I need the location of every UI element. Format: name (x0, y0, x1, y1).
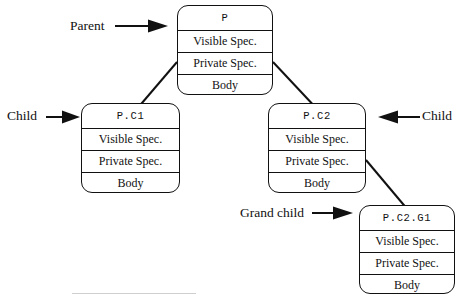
diagram-canvas: P Visible Spec. Private Spec. Body P.C1 … (0, 0, 461, 299)
node-title: P.C1 (82, 104, 179, 128)
node-row-visible-spec: Visible Spec. (82, 128, 179, 150)
node-row-body: Body (269, 172, 365, 193)
package-node-child1[interactable]: P.C1 Visible Spec. Private Spec. Body (81, 103, 180, 193)
connector-child2-grandchild (366, 160, 408, 210)
child-right-arrow-icon (378, 111, 420, 124)
annotation-label-parent: Parent (70, 18, 105, 34)
grand-child-arrow-icon (312, 207, 353, 220)
node-row-visible-spec: Visible Spec. (178, 30, 272, 52)
node-row-body: Body (178, 74, 272, 95)
node-row-private-spec: Private Spec. (82, 150, 179, 172)
node-title: P.C2 (269, 104, 365, 128)
node-row-visible-spec: Visible Spec. (360, 230, 454, 252)
annotation-label-grand-child: Grand child (240, 205, 304, 221)
node-title: P.C2.G1 (360, 206, 454, 230)
package-node-child2[interactable]: P.C2 Visible Spec. Private Spec. Body (268, 103, 366, 193)
package-node-parent[interactable]: P Visible Spec. Private Spec. Body (177, 5, 273, 95)
child-left-arrow-icon (46, 111, 80, 124)
node-row-private-spec: Private Spec. (178, 52, 272, 74)
package-node-grandchild[interactable]: P.C2.G1 Visible Spec. Private Spec. Body (359, 205, 455, 294)
node-row-visible-spec: Visible Spec. (269, 128, 365, 150)
node-row-body: Body (360, 274, 454, 294)
node-row-private-spec: Private Spec. (269, 150, 365, 172)
annotation-label-child-left: Child (7, 108, 37, 124)
parent-arrow-icon (115, 20, 168, 33)
annotation-label-child-right: Child (422, 108, 452, 124)
node-row-body: Body (82, 172, 179, 193)
node-row-private-spec: Private Spec. (360, 252, 454, 274)
node-title: P (178, 6, 272, 30)
